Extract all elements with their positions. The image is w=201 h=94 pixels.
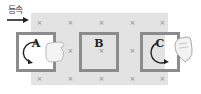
uniform-speed-label: 등속 bbox=[8, 3, 22, 16]
field-into-page-icon: × bbox=[36, 20, 43, 27]
hand-icon bbox=[172, 35, 194, 63]
field-into-page-icon: × bbox=[129, 76, 136, 83]
field-into-page-icon: × bbox=[67, 20, 74, 27]
loop-b: B bbox=[79, 32, 119, 72]
field-into-page-icon: × bbox=[98, 20, 105, 27]
field-into-page-icon: × bbox=[129, 20, 136, 27]
field-into-page-icon: × bbox=[129, 48, 136, 55]
field-into-page-icon: × bbox=[67, 76, 74, 83]
loop-b-label: B bbox=[82, 37, 116, 50]
field-into-page-icon: × bbox=[98, 76, 105, 83]
field-into-page-icon: × bbox=[159, 20, 166, 27]
field-into-page-icon: × bbox=[67, 48, 74, 55]
motion-arrow-icon bbox=[7, 17, 29, 23]
hand-icon bbox=[44, 39, 66, 65]
field-into-page-icon: × bbox=[159, 76, 166, 83]
clockwise-current-arrow-icon bbox=[148, 40, 174, 66]
field-into-page-icon: × bbox=[36, 76, 43, 83]
